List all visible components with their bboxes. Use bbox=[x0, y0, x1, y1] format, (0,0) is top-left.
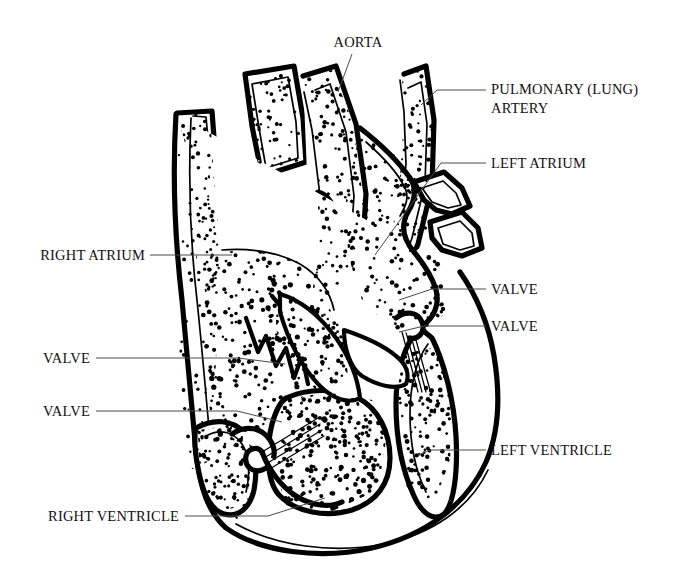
heart-anatomy-diagram: AORTAPULMONARY (LUNG)ARTERYLEFT ATRIUMVA… bbox=[0, 0, 673, 582]
label-line: VALVE bbox=[43, 350, 90, 366]
label-text-valve-left-upper: VALVE bbox=[43, 350, 90, 366]
label-line: ARTERY bbox=[491, 100, 549, 116]
label-line: VALVE bbox=[491, 318, 538, 334]
label-pulmonary-artery: PULMONARY (LUNG)ARTERY bbox=[421, 81, 638, 116]
label-line: RIGHT ATRIUM bbox=[40, 247, 145, 263]
label-aorta: AORTA bbox=[334, 34, 383, 92]
label-line: PULMONARY (LUNG) bbox=[491, 81, 638, 98]
heart-drawing bbox=[169, 60, 498, 553]
label-text-left-ventricle: LEFT VENTRICLE bbox=[491, 442, 612, 458]
label-text-valve-left-lower: VALVE bbox=[43, 403, 90, 419]
label-line: LEFT VENTRICLE bbox=[491, 442, 612, 458]
label-text-pulmonary-artery: PULMONARY (LUNG)ARTERY bbox=[491, 81, 638, 116]
label-line: RIGHT VENTRICLE bbox=[48, 508, 179, 524]
label-text-valve-right-lower: VALVE bbox=[491, 318, 538, 334]
label-line: VALVE bbox=[491, 281, 538, 297]
diagram-canvas: AORTAPULMONARY (LUNG)ARTERYLEFT ATRIUMVA… bbox=[0, 0, 673, 582]
label-line: AORTA bbox=[334, 34, 383, 50]
label-text-left-atrium: LEFT ATRIUM bbox=[491, 155, 586, 171]
label-text-valve-right-upper: VALVE bbox=[491, 281, 538, 297]
label-line: VALVE bbox=[43, 403, 90, 419]
label-line: LEFT ATRIUM bbox=[491, 155, 586, 171]
label-text-aorta: AORTA bbox=[334, 34, 383, 50]
label-text-right-atrium: RIGHT ATRIUM bbox=[40, 247, 145, 263]
label-text-right-ventricle: RIGHT VENTRICLE bbox=[48, 508, 179, 524]
